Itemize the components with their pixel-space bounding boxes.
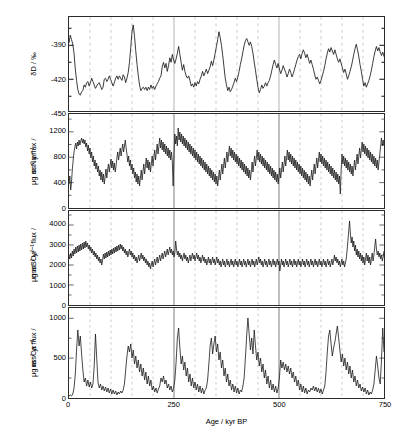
axis-title-line1: δD / ‰ bbox=[29, 52, 38, 75]
ytick: 500 bbox=[53, 354, 66, 362]
x-axis-tick-labels: 0 250 500 750 bbox=[68, 401, 385, 413]
panel-nssSO4-plot bbox=[69, 211, 384, 305]
series-ssNa-flux bbox=[69, 128, 384, 194]
series-dD bbox=[69, 25, 384, 95]
xtick: 750 bbox=[379, 401, 392, 409]
panel-nssSO4-flux bbox=[68, 210, 385, 306]
panel-nssCa-plot bbox=[69, 308, 384, 398]
xtick: 500 bbox=[273, 401, 286, 409]
panel-dD-plot bbox=[69, 17, 384, 111]
axis-title-line2: μg m⁻² yr⁻¹ bbox=[29, 339, 38, 377]
ytick: 1000 bbox=[49, 282, 66, 290]
figure-root: -390 -420 -450 δD / ‰ bbox=[0, 0, 409, 443]
series-nssSO4-flux bbox=[69, 221, 384, 271]
x-axis-title: Age / kyr BP bbox=[68, 417, 385, 426]
grid-major bbox=[174, 308, 279, 398]
axis-title-line2: μg m⁻² yr⁻¹ bbox=[29, 244, 38, 282]
y-ticks-inner bbox=[69, 215, 384, 295]
ytick: -390 bbox=[51, 41, 66, 49]
grid-minor bbox=[90, 17, 363, 111]
xtick: 0 bbox=[66, 401, 70, 409]
grid-minor bbox=[90, 211, 363, 305]
ytick: -420 bbox=[51, 76, 66, 84]
axis-title-line2: μg m⁻² yr⁻¹ bbox=[29, 147, 38, 185]
xtick: 250 bbox=[167, 401, 180, 409]
grid-minor bbox=[90, 308, 363, 398]
grid-major bbox=[174, 17, 279, 111]
panel-dD bbox=[68, 16, 385, 112]
series-nssCa-flux bbox=[69, 318, 384, 396]
grid-major bbox=[174, 211, 279, 305]
ytick: 3000 bbox=[49, 241, 66, 249]
ytick: 2000 bbox=[49, 261, 66, 269]
ytick: 4000 bbox=[49, 221, 66, 229]
y-ticks-inner bbox=[69, 318, 384, 378]
ytick: 400 bbox=[53, 179, 66, 187]
ytick: 1200 bbox=[49, 127, 66, 135]
panel-ssNa-plot bbox=[69, 114, 384, 208]
panel-ssNa-flux bbox=[68, 113, 385, 209]
panel-nssCa-flux bbox=[68, 307, 385, 399]
ytick: 800 bbox=[53, 153, 66, 161]
ytick: 1000 bbox=[49, 314, 66, 322]
